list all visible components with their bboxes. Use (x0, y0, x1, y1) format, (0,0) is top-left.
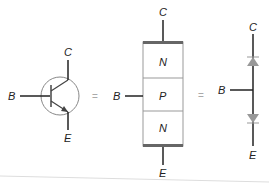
layer-n-top: N (159, 56, 167, 68)
symbol-collector-label: C (64, 46, 72, 58)
block-bottom-contact (143, 144, 183, 147)
block-emitter-label: E (159, 167, 167, 179)
two-diode-model: B C E (218, 21, 259, 161)
layer-p: P (159, 90, 167, 102)
layer-n-bottom: N (159, 122, 167, 134)
symbol-emitter-label: E (64, 132, 72, 144)
diode-bc-icon (247, 57, 259, 66)
block-base-label: B (113, 90, 120, 102)
emitter-arrow-icon (61, 106, 68, 112)
diode-model-base-label: B (218, 84, 225, 96)
diode-model-collector-label: C (249, 21, 257, 33)
block-collector-label: C (159, 6, 167, 18)
collector-arm (51, 80, 68, 91)
equals-sign-1: = (92, 91, 98, 102)
symbol-base-label: B (8, 90, 15, 102)
npn-layer-block: N P N B C E (113, 6, 183, 179)
diode-be-icon (247, 114, 259, 123)
npn-transistor-symbol: B C E (8, 46, 79, 144)
diode-model-emitter-label: E (249, 149, 257, 161)
transistor-equivalence-diagram: B C E = N P N B C E = B C E (0, 0, 269, 189)
block-top-contact (143, 41, 183, 44)
footer-rule (0, 176, 269, 182)
equals-sign-2: = (198, 90, 204, 101)
